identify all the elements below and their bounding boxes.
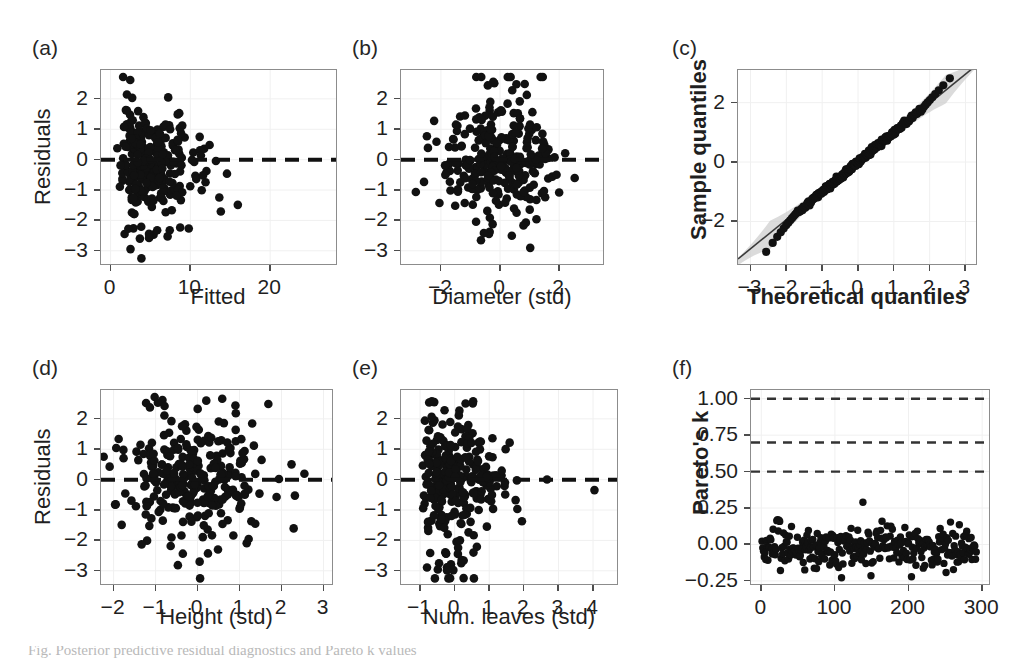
data-point (914, 527, 921, 534)
y-tickmark (744, 471, 750, 473)
data-point (903, 549, 910, 556)
plot-area-f (750, 389, 990, 585)
data-point (918, 554, 925, 561)
data-point (800, 559, 807, 566)
y-tick-label: 1.00 (678, 386, 738, 410)
y-tickmark (744, 580, 750, 582)
panel-label-f: (f) (672, 356, 692, 380)
data-point (777, 567, 784, 574)
data-point (877, 527, 884, 534)
data-point (942, 569, 949, 576)
data-point (788, 523, 795, 530)
data-point (764, 557, 771, 564)
data-point (859, 499, 866, 506)
data-point (847, 525, 854, 532)
data-point (805, 527, 812, 534)
x-tick-label: 100 (816, 595, 851, 619)
y-tickmark (744, 398, 750, 400)
data-point (908, 573, 915, 580)
data-point (956, 521, 963, 528)
data-point (921, 562, 928, 569)
data-point (801, 566, 808, 573)
x-tick-label: 0 (754, 595, 766, 619)
data-point (901, 524, 908, 531)
data-point (786, 533, 793, 540)
data-point (972, 555, 979, 562)
data-point (947, 518, 954, 525)
data-point (870, 558, 877, 565)
x-tickmark (834, 585, 836, 591)
data-point (950, 566, 957, 573)
data-point (767, 536, 774, 543)
data-point (839, 560, 846, 567)
data-point (838, 574, 845, 581)
partial-caption-text: Fig. Posterior predictive residual diagn… (28, 646, 417, 659)
data-point (945, 537, 952, 544)
data-point (889, 526, 896, 533)
data-point (776, 518, 783, 525)
data-point (865, 530, 872, 537)
data-point (821, 555, 828, 562)
data-point (876, 555, 883, 562)
data-point (963, 528, 970, 535)
y-tickmark (744, 507, 750, 509)
data-point (854, 527, 861, 534)
scatter-canvas-f (751, 390, 990, 585)
figure-regression-diagnostics: (a)01020210−1−2−3FittedResiduals(b)−2022… (0, 0, 1031, 669)
y-axis-title-f: Pareto's k (688, 411, 714, 515)
x-tick-label: 300 (964, 595, 999, 619)
y-tick-label: 0.00 (678, 531, 738, 555)
data-point (912, 561, 919, 568)
data-point (940, 560, 947, 567)
data-point (839, 549, 846, 556)
y-tickmark (744, 434, 750, 436)
data-point (813, 565, 820, 572)
x-tickmark (981, 585, 983, 591)
data-point (967, 534, 974, 541)
data-point (867, 572, 874, 579)
caption-strip: Fig. Posterior predictive residual diagn… (0, 646, 1031, 669)
x-tickmark (760, 585, 762, 591)
x-tickmark (908, 585, 910, 591)
data-point (952, 532, 959, 539)
y-tick-label: −0.25 (678, 568, 738, 592)
y-tickmark (744, 543, 750, 545)
panel-f: (f)01002003001.000.750.500.250.00−0.25Pa… (0, 0, 1031, 669)
x-tick-label: 200 (890, 595, 925, 619)
data-point (973, 548, 980, 555)
